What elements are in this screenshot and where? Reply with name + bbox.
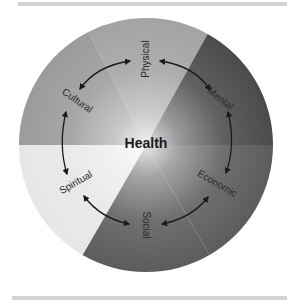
bottom-divider [12, 296, 287, 300]
label-social: Social [141, 211, 152, 238]
center-label-health: Health [125, 135, 168, 151]
health-wheel-diagram: Physical Mental Economic Social Spiritua… [0, 0, 287, 302]
label-physical: Physical [140, 40, 151, 77]
